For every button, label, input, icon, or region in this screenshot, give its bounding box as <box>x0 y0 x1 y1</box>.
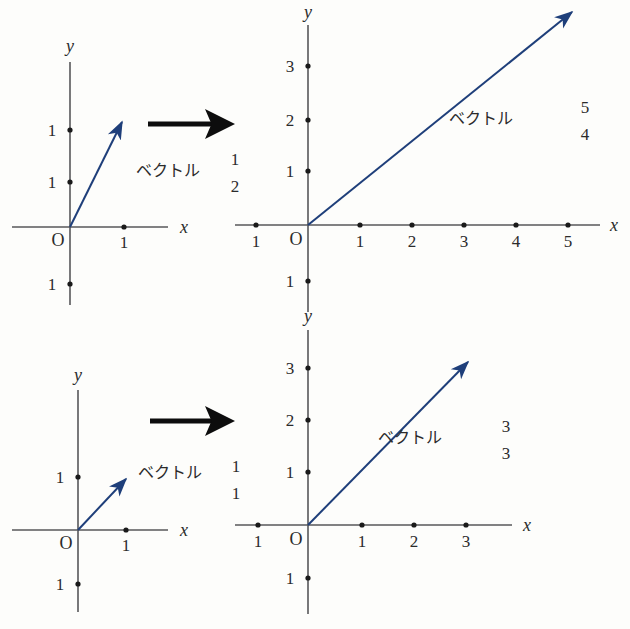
x-tick-label: 3 <box>460 232 469 251</box>
vector-component-x: 1 <box>231 150 240 169</box>
y-tick-dot <box>75 581 80 586</box>
y-tick-dot <box>305 63 310 68</box>
x-axis-label: x <box>522 515 531 535</box>
x-tick-label: 1 <box>358 532 367 551</box>
x-tick-label: 3 <box>462 532 471 551</box>
y-tick-label: 1 <box>56 468 65 487</box>
vector-component-y: 4 <box>581 125 590 144</box>
vector-label-word: ベクトル <box>378 428 442 447</box>
vector-arrow <box>308 12 572 225</box>
y-tick-label: 2 <box>286 411 295 430</box>
x-tick-label: 2 <box>410 532 419 551</box>
x-tick-label: 4 <box>512 232 521 251</box>
panel-bottom-left: 1 1 1 O x y ベクトル 1 1 <box>12 365 240 612</box>
y-tick-label: 1 <box>286 272 295 291</box>
y-tick-label: 3 <box>286 359 295 378</box>
vector-label-word: ベクトル <box>136 161 200 180</box>
y-tick-dot <box>67 127 72 132</box>
vector-arrow <box>70 122 122 227</box>
x-tick-label: 1 <box>356 232 365 251</box>
panel-top-right: 1 1 2 3 4 5 3 2 1 1 O x y ベクトル 5 4 <box>235 2 618 312</box>
y-tick-label: 1 <box>286 463 295 482</box>
x-tick-dot <box>123 527 128 532</box>
x-tick-dot <box>357 222 362 227</box>
x-axis-label: x <box>179 217 188 237</box>
vector-component-x: 1 <box>232 457 241 476</box>
x-tick-dot <box>513 222 518 227</box>
y-tick-dot <box>75 474 80 479</box>
figure-canvas: 1 1 1 1 O x y ベクトル 1 2 <box>0 0 630 629</box>
y-tick-dot <box>67 179 72 184</box>
y-tick-dot <box>305 469 310 474</box>
y-axis-label: y <box>64 36 74 56</box>
y-tick-label: 1 <box>56 575 65 594</box>
y-tick-dot <box>305 575 310 580</box>
x-tick-label: 5 <box>564 232 573 251</box>
x-tick-dot <box>255 522 260 527</box>
x-axis-label: x <box>179 520 188 540</box>
y-axis-label: y <box>302 2 312 22</box>
y-axis-label: y <box>302 306 312 326</box>
vector-label-word: ベクトル <box>138 463 202 482</box>
y-tick-dot <box>305 417 310 422</box>
x-tick-label: 1 <box>254 532 263 551</box>
x-tick-dot <box>121 224 126 229</box>
y-tick-label: 1 <box>286 569 295 588</box>
vector-component-y: 1 <box>232 484 241 503</box>
vector-arrow <box>78 479 126 530</box>
y-tick-dot <box>305 168 310 173</box>
x-tick-dot <box>411 522 416 527</box>
y-tick-label: 1 <box>48 173 57 192</box>
y-tick-label: 1 <box>286 162 295 181</box>
x-tick-dot <box>409 222 414 227</box>
vector-component-x: 5 <box>581 98 590 117</box>
x-tick-dot <box>463 522 468 527</box>
vector-component-y: 3 <box>502 444 511 463</box>
y-tick-dot <box>305 117 310 122</box>
origin-label: O <box>52 230 65 250</box>
y-tick-dot <box>305 278 310 283</box>
panel-bottom-right: 1 1 2 3 3 2 1 1 O x y ベクトル 3 3 <box>235 306 531 614</box>
y-tick-dot <box>67 281 72 286</box>
vector-component-x: 3 <box>502 417 511 436</box>
x-tick-dot <box>461 222 466 227</box>
x-tick-dot <box>565 222 570 227</box>
x-tick-label: 2 <box>408 232 417 251</box>
x-tick-label: 1 <box>122 536 131 555</box>
x-axis-label: x <box>609 215 618 235</box>
x-tick-label: 1 <box>252 232 261 251</box>
vector-scaling-figure: 1 1 1 1 O x y ベクトル 1 2 <box>0 0 630 629</box>
x-tick-dot <box>359 522 364 527</box>
origin-label: O <box>290 229 303 249</box>
vector-component-y: 2 <box>231 177 240 196</box>
panel-top-left: 1 1 1 1 O x y ベクトル 1 2 <box>12 36 239 305</box>
y-tick-label: 2 <box>286 111 295 130</box>
y-tick-label: 1 <box>48 121 57 140</box>
vector-label-word: ベクトル <box>449 109 513 128</box>
x-tick-label: 1 <box>120 233 129 252</box>
x-tick-dot <box>253 222 258 227</box>
y-axis-label: y <box>72 365 82 385</box>
origin-label: O <box>290 529 303 549</box>
y-tick-label: 1 <box>48 275 57 294</box>
origin-label: O <box>60 533 73 553</box>
y-tick-dot <box>305 365 310 370</box>
y-tick-label: 3 <box>286 57 295 76</box>
